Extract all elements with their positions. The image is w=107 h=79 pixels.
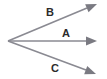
ray-c-group: C (8, 41, 96, 74)
ray-label-a: A (62, 27, 70, 39)
ray-b-arrowhead (85, 4, 97, 12)
ray-label-b: B (46, 6, 54, 18)
geometry-diagram: B A C (0, 0, 107, 79)
ray-a-arrowhead (86, 37, 97, 46)
ray-c-line (8, 41, 86, 70)
diagram-canvas: B A C (0, 0, 107, 79)
ray-label-c: C (51, 62, 59, 74)
ray-b-group: B (8, 4, 97, 41)
ray-c-arrowhead (84, 66, 96, 74)
